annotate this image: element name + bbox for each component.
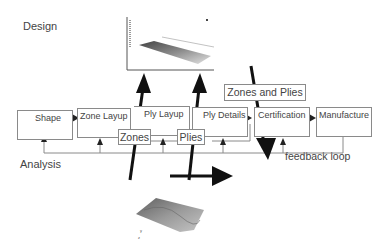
- step-label: Ply Layup: [144, 109, 184, 119]
- step-label: Zone Layup: [80, 111, 128, 121]
- callout-zones-and-plies[interactable]: Zones and Plies: [224, 84, 306, 101]
- step-label: Manufacture: [319, 110, 369, 120]
- step-manufacture[interactable]: Manufacture: [316, 107, 372, 137]
- callout-zones[interactable]: Zones: [118, 129, 151, 145]
- step-label: Ply Details: [203, 110, 246, 120]
- step-shape[interactable]: Shape: [17, 110, 73, 140]
- step-label: Certification: [258, 110, 306, 120]
- callout-plies[interactable]: Plies: [177, 129, 205, 145]
- step-label: Shape: [35, 113, 61, 123]
- step-certification[interactable]: Certification: [254, 107, 310, 137]
